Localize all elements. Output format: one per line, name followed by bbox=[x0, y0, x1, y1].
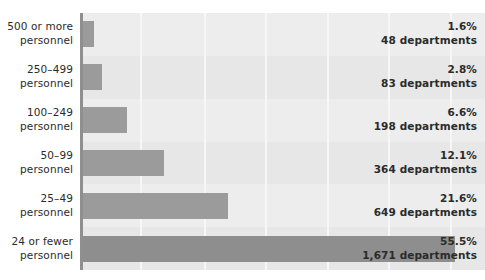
category-label-line1: 50–99 bbox=[0, 149, 73, 163]
bar-chart: 500 or morepersonnel250–499personnel100–… bbox=[0, 0, 485, 280]
value-label: 21.6%649 departments bbox=[374, 192, 477, 219]
gridline-vertical bbox=[388, 13, 390, 270]
category-label-line2: personnel bbox=[0, 249, 73, 263]
gridline-vertical bbox=[204, 13, 206, 270]
bar bbox=[83, 64, 102, 90]
value-label-percent: 21.6% bbox=[374, 192, 477, 206]
value-label-count: 364 departments bbox=[374, 163, 477, 177]
value-label: 1.6%48 departments bbox=[381, 20, 477, 47]
category-label-line1: 24 or fewer bbox=[0, 235, 73, 249]
value-label: 2.8%83 departments bbox=[381, 63, 477, 90]
value-label-count: 649 departments bbox=[374, 206, 477, 220]
category-label-line2: personnel bbox=[0, 163, 73, 177]
category-label: 100–249personnel bbox=[0, 106, 73, 133]
gridline-vertical bbox=[327, 13, 329, 270]
bar bbox=[83, 21, 94, 47]
gridline-vertical bbox=[265, 13, 267, 270]
value-label: 12.1%364 departments bbox=[374, 149, 477, 176]
category-label: 24 or fewerpersonnel bbox=[0, 235, 73, 262]
gridline-vertical bbox=[140, 13, 142, 270]
value-label-percent: 6.6% bbox=[374, 106, 477, 120]
value-label-count: 83 departments bbox=[381, 77, 477, 91]
category-label-line2: personnel bbox=[0, 206, 73, 220]
category-label-line2: personnel bbox=[0, 120, 73, 134]
y-axis-spine bbox=[80, 13, 83, 270]
value-label: 6.6%198 departments bbox=[374, 106, 477, 133]
category-label-line1: 25–49 bbox=[0, 192, 73, 206]
value-label-percent: 12.1% bbox=[374, 149, 477, 163]
category-label: 250–499personnel bbox=[0, 63, 73, 90]
value-label-count: 1,671 departments bbox=[362, 249, 477, 263]
gridline-vertical bbox=[450, 13, 452, 270]
value-label: 55.5%1,671 departments bbox=[362, 235, 477, 262]
category-label: 50–99personnel bbox=[0, 149, 73, 176]
category-label-line1: 100–249 bbox=[0, 106, 73, 120]
value-label-percent: 2.8% bbox=[381, 63, 477, 77]
value-label-count: 48 departments bbox=[381, 34, 477, 48]
bar bbox=[83, 107, 127, 133]
category-label-line1: 500 or more bbox=[0, 20, 73, 34]
category-label-line2: personnel bbox=[0, 77, 73, 91]
category-label-line2: personnel bbox=[0, 34, 73, 48]
category-label-line1: 250–499 bbox=[0, 63, 73, 77]
value-label-percent: 1.6% bbox=[381, 20, 477, 34]
value-label-count: 198 departments bbox=[374, 120, 477, 134]
bar bbox=[83, 150, 164, 176]
category-label: 25–49personnel bbox=[0, 192, 73, 219]
plot-area bbox=[83, 13, 485, 270]
bar bbox=[83, 193, 228, 219]
value-label-percent: 55.5% bbox=[362, 235, 477, 249]
category-label: 500 or morepersonnel bbox=[0, 20, 73, 47]
